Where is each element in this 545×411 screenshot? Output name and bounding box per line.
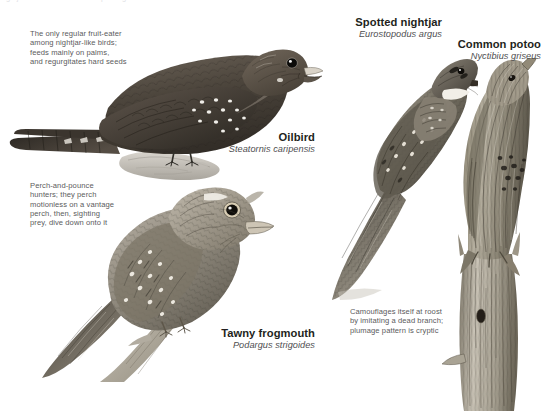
frogmouth-tail: [42, 298, 126, 378]
oilbird-scientific-name: Steatornis caripensis: [175, 144, 315, 155]
potoo-caption: Camouflages itself at roost by imitating…: [350, 307, 500, 335]
common-potoo-label: Common potoo Nyctibius griseus: [395, 38, 541, 62]
oilbird-caption: The only regular fruit-eater among night…: [30, 29, 180, 66]
spotted-nightjar-label: Spotted nightjar Eurostopodus argus: [305, 16, 442, 40]
common-potoo-svg: [438, 58, 545, 411]
potoo-head: [486, 58, 539, 106]
frogmouth-bill: [246, 222, 275, 235]
tawny-frogmouth-scientific-name: Podargus strigoides: [150, 340, 315, 351]
frogmouth-caption: Perch-and-pounce hunters; they perch mot…: [30, 181, 152, 227]
cut-off-header-text: nightjars and allies · order Caprimulgif…: [0, 0, 545, 2]
tawny-frogmouth-common-name: Tawny frogmouth: [150, 327, 315, 340]
spotted-nightjar-common-name: Spotted nightjar: [305, 16, 442, 29]
oilbird-eye: [287, 58, 298, 68]
common-potoo-common-name: Common potoo: [395, 38, 541, 51]
oilbird-common-name: Oilbird: [175, 131, 315, 144]
oilbird-label: Oilbird Steatornis caripensis: [175, 131, 315, 155]
tawny-frogmouth-label: Tawny frogmouth Podargus strigoides: [150, 327, 315, 351]
nightjar-tail: [332, 182, 406, 300]
illustration-plate: nightjars and allies · order Caprimulgif…: [0, 0, 545, 411]
common-potoo-scientific-name: Nyctibius griseus: [395, 51, 541, 62]
common-potoo-illustration: [438, 58, 545, 411]
